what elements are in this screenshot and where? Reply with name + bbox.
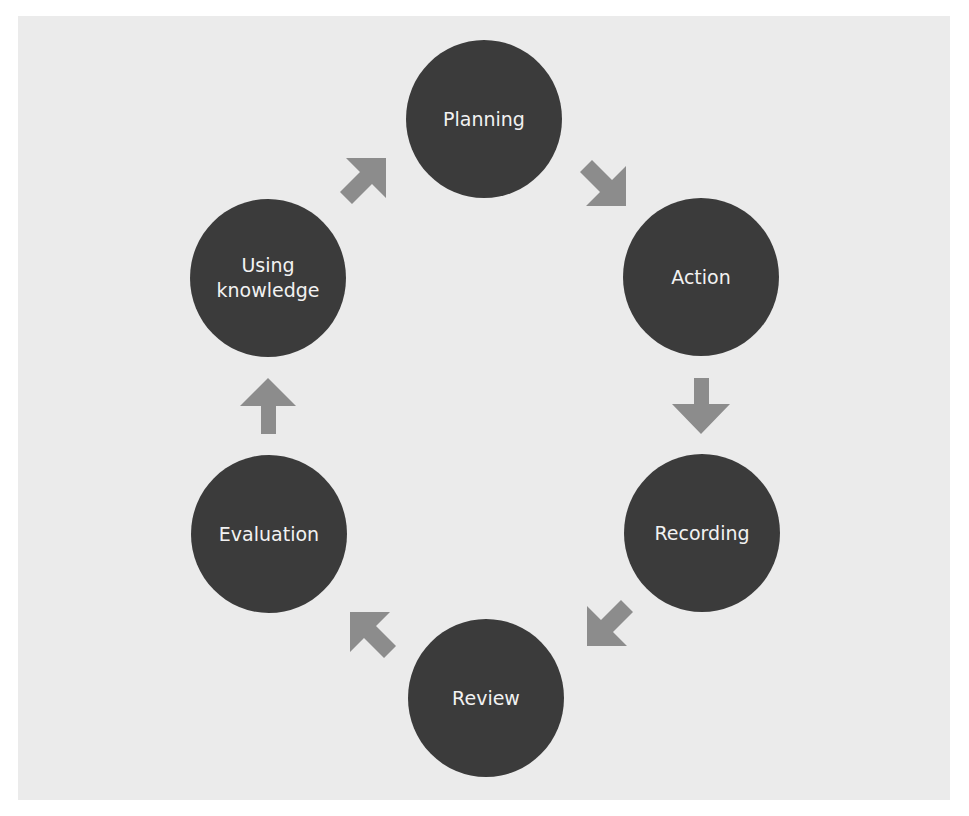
arrow-down-right-icon [578, 158, 626, 206]
node-planning: Planning [406, 40, 562, 198]
node-using-knowledge: Using knowledge [190, 199, 346, 357]
node-label: Action [671, 265, 731, 290]
node-action: Action [623, 198, 779, 356]
node-label: Evaluation [219, 522, 319, 547]
node-review: Review [408, 619, 564, 777]
node-evaluation: Evaluation [191, 455, 347, 613]
arrow-up-left-icon [350, 612, 398, 660]
arrow-up-right-icon [338, 158, 386, 206]
node-label: Review [452, 686, 520, 711]
arrow-down-icon [672, 378, 730, 434]
arrow-up-icon [240, 378, 296, 434]
node-recording: Recording [624, 454, 780, 612]
node-label: Recording [654, 521, 749, 546]
node-label: Planning [443, 107, 525, 132]
node-label: Using knowledge [217, 253, 320, 303]
arrow-down-left-icon [587, 598, 635, 646]
